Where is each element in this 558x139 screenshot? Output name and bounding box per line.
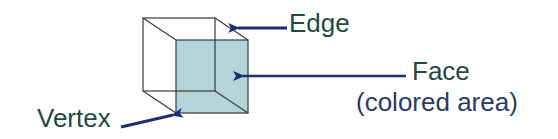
face-note-label: (colored area) bbox=[356, 89, 518, 115]
face-label: Face bbox=[412, 58, 470, 84]
cube-face bbox=[176, 40, 248, 113]
vertex-label: Vertex bbox=[37, 105, 111, 131]
cube-edge-bottom-left bbox=[143, 91, 176, 113]
vertex-arrow-icon bbox=[121, 115, 173, 127]
cube-parts-diagram: Edge Face (colored area) Vertex bbox=[0, 0, 558, 139]
edge-label: Edge bbox=[289, 10, 350, 36]
cube-edge-top-left bbox=[143, 18, 176, 40]
